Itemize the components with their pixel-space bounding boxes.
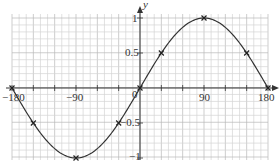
- y-axis-title: y: [142, 0, 148, 10]
- y-tick-label-0-5: 0.5: [125, 46, 139, 58]
- x-tick-label-180: 180: [258, 91, 275, 103]
- x-tick-label-90: 90: [199, 91, 211, 103]
- sine-chart: y −180 −90 0 90 180 1 0.5 −0.5 −1: [0, 0, 279, 164]
- y-tick-label-1: 1: [132, 12, 138, 24]
- x-tick-label-minus90: −90: [66, 91, 84, 103]
- y-tick-label-minus1: −1: [129, 150, 141, 162]
- x-tick-label-0: 0: [132, 88, 138, 100]
- y-tick-label-minus0-5: −0.5: [120, 116, 140, 128]
- x-tick-label-minus180: −180: [2, 91, 25, 103]
